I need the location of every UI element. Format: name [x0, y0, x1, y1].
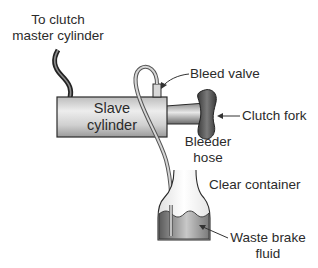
clear-container: [158, 170, 210, 240]
label-waste-fluid: Waste brake fluid: [228, 230, 308, 262]
label-slave-cylinder: Slave cylinder: [72, 100, 152, 134]
label-master-line2: master cylinder: [8, 28, 108, 44]
label-waste-line1: Waste brake: [228, 230, 308, 246]
label-bleed-valve: Bleed valve: [190, 66, 260, 82]
label-master-cylinder: To clutch master cylinder: [8, 12, 108, 44]
label-slave-line1: Slave: [72, 100, 152, 117]
label-master-line1: To clutch: [8, 12, 108, 28]
label-bleeder-line1: Bleeder: [178, 134, 238, 150]
label-clear-container: Clear container: [209, 177, 301, 193]
label-bleeder-line2: hose: [178, 150, 238, 166]
label-clutch-fork: Clutch fork: [242, 108, 307, 124]
master-cylinder-line: [55, 50, 71, 98]
label-bleeder-hose: Bleeder hose: [178, 134, 238, 166]
clutch-fork: [198, 90, 217, 139]
label-waste-line2: fluid: [228, 246, 308, 262]
bleed-valve-nipple: [153, 84, 161, 97]
label-slave-line2: cylinder: [72, 117, 152, 134]
